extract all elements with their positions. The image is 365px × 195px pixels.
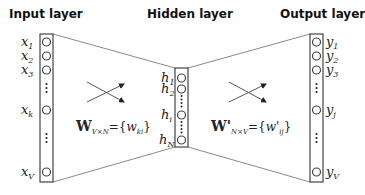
input-node-label-xV: xV [21,165,34,181]
output-layer-column [310,34,323,182]
input-hidden-weight-formula: WV×N={wki} [76,118,151,136]
input-hidden-bottom-line [53,147,175,182]
output-node-label-y3: y3 [326,63,338,79]
output-node-label-yV: yV [326,165,339,181]
cross-arrows-icon-right [229,82,266,102]
output-node-label-yj: yj [326,103,336,119]
hidden-layer-title: Hidden layer [147,7,233,21]
hidden-output-top-line [188,34,310,68]
hidden-node-label-hN: hN [159,133,174,149]
hidden-output-bottom-line [188,147,310,182]
hidden-node-label-hi: hi [161,108,172,124]
input-node-label-xk: xk [21,103,33,119]
hidden-output-weight-formula: W'N×V={w'ij} [211,118,291,136]
input-layer-title: Input layer [9,7,83,21]
input-node-label-x3: x3 [21,63,33,79]
input-hidden-top-line [53,34,175,68]
output-layer-title: Output layer [280,7,365,21]
cross-arrows-icon-left [87,82,124,102]
hidden-node-label-h2: h2 [161,82,174,98]
input-layer-column [40,34,53,182]
